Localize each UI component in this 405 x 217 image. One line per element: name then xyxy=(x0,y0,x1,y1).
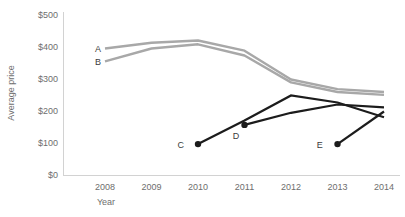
line-chart: $500 $400 $300 $200 $100 $0 2008 2009 20… xyxy=(0,0,405,217)
series-marker-c xyxy=(195,141,201,147)
series-label-d: D xyxy=(233,131,240,141)
series-label-b: B xyxy=(95,57,101,67)
y-tick-label-100: $100 xyxy=(38,138,58,148)
x-tick-label-2010: 2010 xyxy=(188,182,208,192)
series-marker-d xyxy=(241,122,247,128)
series-marker-e xyxy=(334,141,340,147)
series-label-a: A xyxy=(95,44,101,54)
x-tick-label-2011: 2011 xyxy=(235,182,254,192)
y-tick-label-0: $0 xyxy=(48,170,58,180)
series-label-e: E xyxy=(317,140,323,150)
x-tick-label-2009: 2009 xyxy=(141,182,161,192)
series-line-a xyxy=(105,41,384,93)
series-layer xyxy=(105,41,384,148)
series-line-d xyxy=(245,105,385,125)
y-tick-label-500: $500 xyxy=(38,10,58,20)
y-tick-label-300: $300 xyxy=(38,74,58,84)
x-axis-title: Year xyxy=(97,197,115,207)
y-axis-title: Average price xyxy=(6,65,16,120)
x-tick-label-2014: 2014 xyxy=(374,182,394,192)
series-label-c: C xyxy=(178,140,185,150)
x-tick-label-2012: 2012 xyxy=(281,182,301,192)
y-tick-label-200: $200 xyxy=(38,106,58,116)
series-line-c xyxy=(198,96,384,145)
x-tick-label-2013: 2013 xyxy=(327,182,347,192)
y-tick-label-400: $400 xyxy=(38,42,58,52)
x-tick-label-2008: 2008 xyxy=(95,182,115,192)
chart-container: $500 $400 $300 $200 $100 $0 2008 2009 20… xyxy=(0,0,405,217)
series-line-e xyxy=(338,112,385,145)
